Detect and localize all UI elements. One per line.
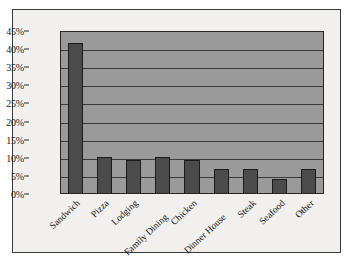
y-axis-tick-label: 40% — [6, 44, 24, 55]
bar — [243, 169, 258, 193]
y-axis-tick-label: 30% — [6, 80, 24, 91]
chart-figure: 45%40%35%30%25%20%15%10%5%0% SandwichPiz… — [0, 0, 353, 262]
y-axis-tick-label: 0% — [11, 189, 24, 200]
x-axis-band: Pizza — [89, 196, 118, 262]
y-axis-tick-mark — [24, 85, 29, 86]
bar-band — [119, 32, 148, 193]
bar-band — [177, 32, 206, 193]
x-axis-band: Dinner House — [207, 196, 236, 262]
y-axis: 45%40%35%30%25%20%15%10%5%0% — [13, 31, 60, 194]
y-axis-tick-mark — [24, 194, 29, 195]
bar — [214, 169, 229, 193]
x-axis-band: Seafood — [265, 196, 294, 262]
bar-band — [148, 32, 177, 193]
y-axis-tick-label: 45% — [6, 26, 24, 37]
y-axis-tick-label: 15% — [6, 134, 24, 145]
y-axis-tick-mark — [24, 67, 29, 68]
bar — [126, 160, 141, 193]
bar — [97, 157, 112, 193]
bar — [301, 169, 316, 193]
bar-band — [294, 32, 323, 193]
bar-band — [207, 32, 236, 193]
y-axis-tick-label: 10% — [6, 152, 24, 163]
x-axis-band: Other — [295, 196, 324, 262]
y-axis-tick-mark — [24, 103, 29, 104]
y-axis-tick-mark — [24, 121, 29, 122]
y-axis-tick-label: 35% — [6, 62, 24, 73]
bar — [184, 160, 199, 193]
x-axis-tick-label: Other — [293, 198, 316, 220]
y-axis-tick-label: 5% — [11, 170, 24, 181]
bar-band — [236, 32, 265, 193]
x-axis-tick-label: Pizza — [89, 198, 111, 219]
y-axis-tick-mark — [24, 175, 29, 176]
figure-plate: 45%40%35%30%25%20%15%10%5%0% SandwichPiz… — [12, 9, 341, 253]
x-axis-band: Sandwich — [60, 196, 89, 262]
x-axis-tick-label: Steak — [235, 198, 257, 220]
y-axis-tick-label: 25% — [6, 98, 24, 109]
bar-band — [61, 32, 90, 193]
y-axis-tick-mark — [24, 49, 29, 50]
bar — [155, 157, 170, 193]
bar-band — [265, 32, 294, 193]
bar-series — [61, 32, 323, 193]
x-axis-band: Family Dining — [148, 196, 177, 262]
y-axis-tick-mark — [24, 31, 29, 32]
x-axis: SandwichPizzaLodgingFamily DiningChicken… — [60, 196, 324, 262]
plot-wrapper — [60, 31, 324, 194]
y-axis-tick-mark — [24, 157, 29, 158]
x-axis-band: Steak — [236, 196, 265, 262]
bar — [68, 43, 83, 193]
y-axis-tick-label: 20% — [6, 116, 24, 127]
y-axis-tick-mark — [24, 139, 29, 140]
x-axis-tick-label: Sandwich — [47, 198, 81, 231]
bar-band — [90, 32, 119, 193]
plot-area — [60, 31, 324, 194]
bar — [272, 179, 287, 193]
